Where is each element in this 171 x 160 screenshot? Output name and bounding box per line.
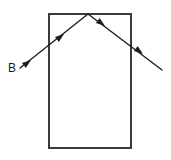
diagram-canvas: B [0, 0, 171, 160]
ray-diagram-figure: B [0, 0, 171, 160]
figure-background [0, 0, 171, 160]
ray-label-b: B [8, 61, 16, 75]
